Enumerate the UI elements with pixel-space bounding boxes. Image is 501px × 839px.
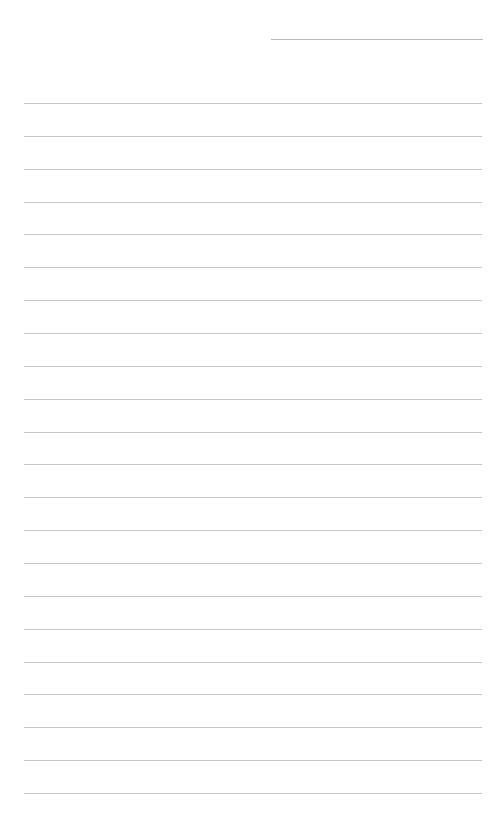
ruled-line: [24, 694, 482, 695]
ruled-line: [24, 202, 482, 203]
ruled-line: [24, 136, 482, 137]
ruled-line: [24, 760, 482, 761]
ruled-line: [24, 727, 482, 728]
ruled-line: [24, 464, 482, 465]
ruled-line: [24, 366, 482, 367]
ruled-line: [24, 300, 482, 301]
ruled-line: [24, 234, 482, 235]
ruled-line: [24, 793, 482, 794]
ruled-line: [24, 530, 482, 531]
ruled-line: [24, 563, 482, 564]
ruled-line: [24, 629, 482, 630]
ruled-line: [24, 267, 482, 268]
ruled-line: [24, 399, 482, 400]
lined-paper-page: [0, 0, 501, 839]
ruled-line: [24, 103, 482, 104]
ruled-line: [24, 497, 482, 498]
ruled-line: [24, 596, 482, 597]
ruled-line: [24, 333, 482, 334]
header-date-line: [271, 39, 483, 40]
ruled-line: [24, 662, 482, 663]
ruled-line: [24, 432, 482, 433]
ruled-line: [24, 169, 482, 170]
